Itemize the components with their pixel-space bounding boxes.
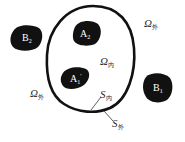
omega-outer-top-label: Ω外 — [144, 18, 158, 30]
omega-outer-left-label: Ω外 — [30, 88, 44, 100]
body-b2-label: B2 — [22, 33, 32, 44]
shielding-diagram: B2 A2 A1' B1 Ω外 Ω内 Ω外 S内 S外 — [0, 0, 185, 142]
body-a1-label: A1' — [70, 73, 81, 85]
s-inner-label: S内 — [100, 89, 112, 101]
omega-inner-label: Ω内 — [100, 56, 114, 68]
body-a2-label: A2 — [80, 29, 90, 40]
body-b1-label: B1 — [153, 83, 163, 94]
s-outer-label: S外 — [112, 118, 124, 130]
